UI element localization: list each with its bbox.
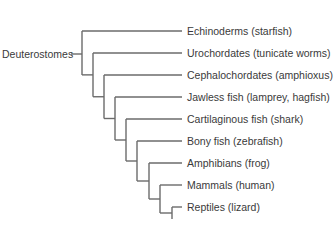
- leaf-reptiles: Reptiles (lizard): [187, 201, 260, 213]
- leaf-bony-fish: Bony fish (zebrafish): [187, 135, 283, 147]
- leaf-mammals: Mammals (human): [187, 179, 275, 191]
- leaf-amphibians: Amphibians (frog): [187, 157, 270, 169]
- root-label-deuterostomes: Deuterostomes: [2, 48, 73, 60]
- leaf-cephalochordates: Cephalochordates (amphioxus): [187, 69, 333, 81]
- leaf-echinoderms: Echinoderms (starfish): [187, 25, 292, 37]
- leaf-urochordates: Urochordates (tunicate worms): [187, 47, 331, 59]
- leaf-jawless-fish: Jawless fish (lamprey, hagfish): [187, 91, 330, 103]
- leaf-cartilaginous-fish: Cartilaginous fish (shark): [187, 113, 303, 125]
